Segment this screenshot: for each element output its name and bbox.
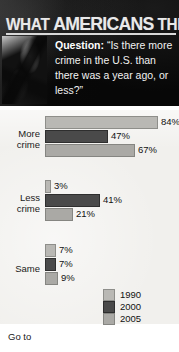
bar-same-1990 — [45, 244, 56, 257]
question-text-block: Question: “Is there more crime in the U.… — [55, 38, 175, 98]
bar-row-less-crime-2005: 21% — [45, 208, 179, 221]
bar-value-more-crime-2005: 67% — [138, 143, 157, 157]
bar-row-more-crime-2000: 47% — [45, 130, 179, 143]
bar-row-more-crime-1990: 84% — [45, 116, 179, 129]
bar-less-crime-2005 — [45, 208, 73, 221]
bar-more-crime-1990 — [45, 116, 158, 129]
bar-more-crime-2005 — [45, 144, 135, 157]
category-label-less-crime: Less crime — [0, 192, 40, 214]
page-title: WHAT AMERICANS THINK — [6, 15, 166, 33]
category-label-line-2: crime — [0, 203, 40, 214]
bar-row-less-crime-1990: 3% — [45, 180, 179, 193]
legend-label-2005: 2005 — [120, 312, 141, 325]
bar-same-2000 — [45, 258, 56, 271]
category-label-same: Same — [0, 263, 40, 274]
bar-more-crime-2000 — [45, 130, 108, 143]
goto-label: Go to — [8, 331, 31, 342]
bar-row-same-1990: 7% — [45, 244, 179, 257]
header-banner: WHAT AMERICANS THINK Question: “Is there… — [0, 0, 179, 106]
title-underline-divider — [6, 33, 176, 35]
bar-value-less-crime-2000: 41% — [103, 193, 122, 207]
bar-row-same-2000: 7% — [45, 258, 179, 271]
page-title-part-2: AMERICANS — [53, 13, 153, 34]
bar-row-more-crime-2005: 67% — [45, 144, 179, 157]
category-label-line-1: Same — [0, 263, 40, 274]
bar-row-less-crime-2000: 41% — [45, 194, 179, 207]
bar-value-same-2005: 9% — [61, 271, 75, 285]
question-label: Question: — [55, 39, 104, 51]
bar-value-same-2000: 7% — [59, 257, 73, 271]
bar-less-crime-2000 — [45, 194, 100, 207]
bar-value-less-crime-1990: 3% — [54, 179, 68, 193]
legend-swatch-2005 — [103, 313, 115, 325]
header-photo-image — [2, 36, 47, 104]
category-label-more-crime: More crime — [0, 128, 40, 150]
page-title-part-3: THINK — [154, 15, 179, 33]
bar-same-2005 — [45, 272, 58, 285]
category-label-line-2: crime — [0, 139, 40, 150]
bar-row-same-2005: 9% — [45, 272, 179, 285]
bar-value-more-crime-1990: 84% — [161, 115, 179, 129]
category-label-line-1: Less — [0, 192, 40, 203]
legend-swatch-2000 — [103, 301, 115, 313]
bar-value-same-1990: 7% — [59, 243, 73, 257]
legend-swatch-1990 — [103, 289, 115, 301]
bar-value-less-crime-2005: 21% — [76, 207, 95, 221]
bar-less-crime-1990 — [45, 180, 51, 193]
bar-value-more-crime-2000: 47% — [111, 129, 130, 143]
chart-panel: More crime 84% 47% 67% Less crime 3% 41% — [0, 108, 179, 324]
page-title-part-1: WHAT — [6, 15, 53, 33]
category-label-line-1: More — [0, 128, 40, 139]
